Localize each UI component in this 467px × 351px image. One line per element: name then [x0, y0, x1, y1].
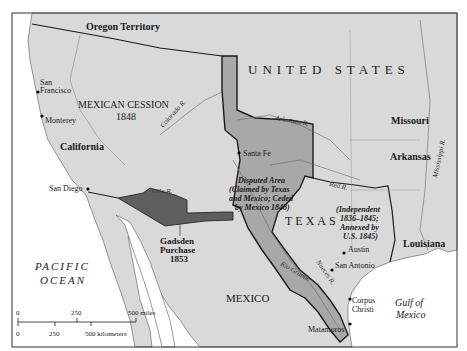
label-gulf-2: Mexico: [395, 309, 425, 320]
label-pacific: PACIFIC: [34, 260, 90, 272]
svg-text:San Antonio: San Antonio: [335, 261, 375, 270]
svg-text:Matamoros: Matamoros: [308, 325, 344, 334]
city-monterey: Monterey: [40, 114, 76, 125]
disputed-note-2: (Claimed by Texas: [229, 185, 290, 194]
label-gila-river: Gila R.: [152, 187, 172, 195]
disputed-note-3: and Mexico; Ceded: [229, 194, 294, 203]
svg-text:Austin: Austin: [348, 245, 369, 254]
scale-km-0: 0: [16, 330, 20, 338]
scale-miles-0: 0: [16, 309, 20, 317]
label-mexican-cession: MEXICAN CESSION: [78, 99, 169, 110]
texas-note-3: Annexed by: [339, 223, 379, 232]
scale-km-250: 250: [49, 330, 60, 338]
scale-miles-250: 250: [71, 309, 82, 317]
svg-text:Christi: Christi: [352, 305, 375, 314]
label-california: California: [60, 141, 104, 152]
texas-note-1: (Independent: [336, 205, 381, 214]
svg-text:Corpus: Corpus: [352, 296, 375, 305]
city-santa-fe: Santa Fe: [237, 149, 271, 158]
label-missouri: Missouri: [391, 115, 429, 126]
svg-text:San Diego: San Diego: [49, 184, 83, 193]
scale-km-500: 500 kilometers: [85, 330, 127, 338]
disputed-note-4: by Mexico 1848): [235, 203, 290, 212]
label-gadsden-3: 1853: [170, 254, 189, 264]
scale-miles-500: 500 miles: [128, 309, 156, 317]
svg-text:Francisco: Francisco: [40, 86, 71, 95]
label-united-states: UNITED STATES: [248, 62, 410, 77]
disputed-note-1: Disputed Area: [237, 176, 285, 185]
label-arkansas: Arkansas: [390, 151, 431, 162]
texas-note-2: 1836–1845;: [340, 214, 379, 223]
label-louisiana: Louisiana: [403, 238, 445, 249]
label-mexico: MEXICO: [226, 292, 269, 304]
svg-text:Santa Fe: Santa Fe: [243, 149, 271, 158]
label-cession-year: 1848: [116, 111, 136, 122]
label-gulf-1: Gulf of: [395, 297, 424, 308]
texas-note-4: U.S. 1845): [343, 232, 378, 241]
map-canvas: Oregon Territory UNITED STATES MEXICAN C…: [0, 0, 467, 351]
label-oregon-territory: Oregon Territory: [86, 21, 160, 32]
label-ocean: OCEAN: [40, 274, 86, 286]
svg-text:Monterey: Monterey: [45, 116, 76, 125]
label-texas: TEXAS: [285, 214, 339, 228]
city-corpus-christi: Corpus Christi: [348, 296, 375, 314]
